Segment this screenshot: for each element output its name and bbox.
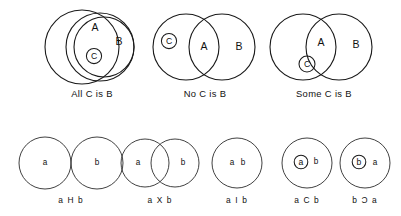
caption-some-c-is-b: Some C is B xyxy=(296,88,352,99)
label-b: B xyxy=(352,38,359,50)
circle-b-outer xyxy=(282,138,332,188)
diagram-a-c-b: a b a C b xyxy=(282,138,332,205)
label-b: b xyxy=(241,158,246,167)
diagram-all-c-is-b: A B C All C is B xyxy=(45,10,134,99)
label-a: a xyxy=(230,158,235,167)
label-a: a xyxy=(136,158,141,167)
circle-a-left xyxy=(153,14,219,80)
diagram-no-c-is-b: A B C No C is B xyxy=(153,14,255,99)
label-a: A xyxy=(91,21,98,33)
caption-a-h-b: a H b xyxy=(58,195,84,205)
circle-a xyxy=(121,139,169,187)
circle-a-outer xyxy=(340,138,390,188)
label-c: C xyxy=(166,36,172,46)
label-c: C xyxy=(304,59,310,69)
circle-ab xyxy=(212,138,262,188)
label-a: A xyxy=(200,40,207,52)
circle-a-left xyxy=(270,14,336,80)
euler-diagram-figure: A B C All C is B A B C No C is B A B C S… xyxy=(0,0,401,216)
circle-b-right xyxy=(189,14,255,80)
label-a: a xyxy=(373,158,378,167)
caption-all-c-is-b: All C is B xyxy=(71,88,113,99)
diagram-a-h-b: a b a H b xyxy=(19,137,123,205)
diagram-b-sup-a: b a b Ɔ a xyxy=(340,138,390,205)
circle-b-right xyxy=(306,14,372,80)
caption-a-c-b: a C b xyxy=(294,195,320,205)
circle-b-right xyxy=(74,17,134,77)
caption-a-x-b: a X b xyxy=(147,195,172,205)
label-a: A xyxy=(317,36,324,48)
label-c: C xyxy=(91,51,97,61)
caption-no-c-is-b: No C is B xyxy=(184,88,227,99)
label-b: B xyxy=(235,40,242,52)
label-a: a xyxy=(43,158,48,167)
caption-b-sup-a: b Ɔ a xyxy=(352,195,378,205)
label-a: a xyxy=(299,157,304,167)
label-b: B xyxy=(115,35,122,47)
circle-a xyxy=(66,13,134,81)
diagram-a-x-b: a b a X b xyxy=(121,139,199,205)
label-b: b xyxy=(181,158,186,167)
label-b: b xyxy=(357,157,362,167)
diagram-some-c-is-b: A B C Some C is B xyxy=(270,14,372,99)
diagram-a-i-b: a b a I b xyxy=(212,138,262,205)
figure-canvas: A B C All C is B A B C No C is B A B C S… xyxy=(0,0,401,216)
circle-b xyxy=(151,139,199,187)
caption-a-i-b: a I b xyxy=(226,195,248,205)
label-b: b xyxy=(314,157,319,166)
circle-b-outer xyxy=(45,10,119,84)
label-b: b xyxy=(95,158,100,167)
